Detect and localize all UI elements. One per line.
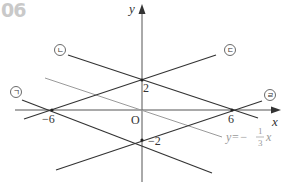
svg-text:ㄱ: ㄱ xyxy=(13,88,20,97)
svg-text:ㄴ: ㄴ xyxy=(57,46,64,55)
coordinate-diagram: y x O −6 6 2 −2 ㄱ ㄴ ㄷ ㄹ y=− 1 3 x xyxy=(0,0,283,182)
tick-x-6: 6 xyxy=(228,112,234,126)
svg-text:3: 3 xyxy=(258,138,263,148)
x-axis-label: x xyxy=(271,114,278,129)
svg-text:ㄷ: ㄷ xyxy=(227,46,234,55)
x-axis-arrow-icon xyxy=(271,107,281,114)
line-giyeok xyxy=(22,100,212,173)
reference-line xyxy=(45,78,222,137)
label-rieul: ㄹ xyxy=(265,90,276,101)
tick-y-2: 2 xyxy=(143,81,149,95)
point-0-neg2 xyxy=(140,138,143,141)
svg-text:x: x xyxy=(265,130,272,144)
y-axis-label: y xyxy=(127,1,135,16)
y-axis-arrow-icon xyxy=(139,4,146,14)
line-nieun xyxy=(68,55,258,118)
label-nieun: ㄴ xyxy=(55,45,66,56)
svg-text:ㄹ: ㄹ xyxy=(267,91,274,100)
svg-text:1: 1 xyxy=(258,126,263,136)
label-giyeok: ㄱ xyxy=(11,87,22,98)
reference-equation: y=− 1 3 x xyxy=(225,126,272,148)
svg-text:y=−: y=− xyxy=(225,130,248,144)
origin-label: O xyxy=(131,113,140,127)
tick-y-neg2: −2 xyxy=(148,134,161,148)
label-digeut: ㄷ xyxy=(225,45,236,56)
tick-x-neg6: −6 xyxy=(42,112,55,126)
